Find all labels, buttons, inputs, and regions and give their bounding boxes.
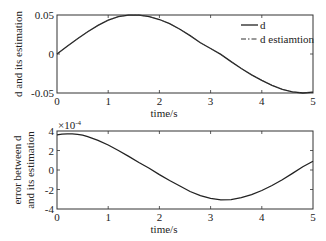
bottom-xtick-2: 2 — [157, 211, 163, 223]
bottom-ylabel-line2: and its estimation — [24, 131, 36, 209]
bottom-xtick-3: 3 — [208, 211, 214, 223]
y-multiplier: ×10-4 — [58, 119, 82, 131]
top-ytick-max: 0.05 — [35, 9, 55, 21]
top-xtick-2: 2 — [157, 95, 163, 107]
figure: 0 1 2 3 4 5 0.05 0 -0.05 time/s d and it… — [0, 0, 326, 241]
bottom-xtick-5: 5 — [310, 211, 316, 223]
series-error-line — [57, 134, 313, 200]
bottom-ylabel-line1: error between d — [11, 135, 23, 205]
series-d-estimation-line — [57, 15, 313, 93]
bottom-ytick-0: 0 — [49, 164, 55, 176]
legend: d d estiamtion — [241, 19, 315, 45]
legend-d-label: d — [260, 19, 266, 31]
bottom-xtick-0: 0 — [54, 211, 60, 223]
bottom-plot-axes-box — [57, 131, 313, 209]
top-xlabel: time/s — [151, 107, 178, 119]
top-xtick-0: 0 — [54, 95, 60, 107]
top-xtick-3: 3 — [208, 95, 214, 107]
bottom-ticks — [57, 131, 313, 209]
bottom-xtick-1: 1 — [105, 211, 111, 223]
legend-d-estimation-label: d estiamtion — [260, 33, 315, 45]
bottom-ytick-neg2: -2 — [45, 184, 54, 196]
top-ylabel: d and its estimation — [12, 11, 24, 97]
bottom-xlabel: time/s — [151, 223, 178, 235]
bottom-ytick-neg4: -4 — [45, 203, 55, 215]
top-plot: 0 1 2 3 4 5 0.05 0 -0.05 time/s d and it… — [12, 9, 316, 119]
top-ytick-zero: 0 — [49, 48, 55, 60]
top-ytick-min: -0.05 — [31, 87, 54, 99]
top-xtick-4: 4 — [259, 95, 265, 107]
bottom-ytick-4: 4 — [49, 125, 55, 137]
bottom-xtick-4: 4 — [259, 211, 265, 223]
top-xtick-1: 1 — [105, 95, 111, 107]
bottom-plot: ×10-4 4 2 0 -2 -4 0 1 2 3 4 5 time/s err… — [11, 119, 316, 235]
bottom-ytick-2: 2 — [49, 145, 55, 157]
top-xtick-5: 5 — [310, 95, 316, 107]
